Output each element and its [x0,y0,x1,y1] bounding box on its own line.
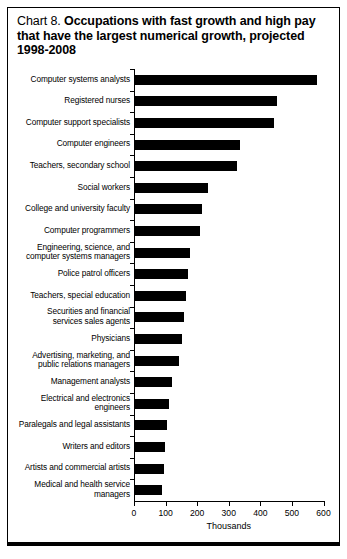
x-axis-tick-label: 100 [151,508,181,518]
y-axis-tick [130,415,134,416]
y-axis-tick [130,393,134,394]
y-axis-tick [130,242,134,243]
x-axis-tick [324,502,325,506]
category-label: Writers and editors [12,442,130,452]
category-label: Computer support specialists [12,118,130,128]
y-axis-tick [130,91,134,92]
category-label: Computer systems analysts [12,75,130,85]
chart-figure: Chart 8. Occupations with fast growth an… [7,7,340,543]
bar [135,118,274,128]
y-axis-tick [130,134,134,135]
bar [135,183,208,193]
bar [135,399,169,409]
bar [135,140,240,150]
x-axis-tick [197,502,198,506]
bar [135,161,237,171]
bar [135,334,182,344]
x-axis-tick [229,502,230,506]
y-axis-tick [130,199,134,200]
bar [135,291,186,301]
bar [135,226,200,236]
category-label: Social workers [12,183,130,193]
category-label: Teachers, secondary school [12,161,130,171]
y-axis-tick [130,112,134,113]
y-axis-tick [130,458,134,459]
x-axis-tick-label: 200 [182,508,212,518]
y-axis-tick [130,371,134,372]
bar [135,377,172,387]
category-label: Paralegals and legal assistants [12,420,130,430]
category-label: Advertising, marketing, and public relat… [12,351,130,370]
y-axis-tick [130,155,134,156]
category-label: Medical and health service managers [12,480,130,499]
y-axis-tick [130,307,134,308]
category-label: Artists and commercial artists [12,463,130,473]
bar [135,96,277,106]
category-label: Police patrol officers [12,269,130,279]
y-axis-tick [130,177,134,178]
x-axis-tick [166,502,167,506]
bar [135,464,164,474]
bar [135,442,165,452]
bar [135,356,179,366]
x-axis-tick-label: 500 [277,508,307,518]
y-axis-tick [130,328,134,329]
x-axis-title: Thousands [134,521,324,531]
category-label: Computer engineers [12,139,130,149]
x-axis-tick-label: 0 [119,508,149,518]
category-label: Computer programmers [12,226,130,236]
bar [135,312,184,322]
bar [135,204,202,214]
x-axis-tick [134,502,135,506]
y-axis-tick [130,220,134,221]
category-label: Electrical and electronics engineers [12,394,130,413]
plot-area: Thousands Computer systems analystsRegis… [8,8,341,544]
y-axis-tick [130,263,134,264]
x-axis-tick-label: 300 [214,508,244,518]
category-label: College and university faculty [12,204,130,214]
y-axis-tick [130,479,134,480]
x-axis-tick-label: 400 [245,508,275,518]
y-axis-tick [130,69,134,70]
bar [135,248,190,258]
x-axis-tick [292,502,293,506]
bar [135,420,167,430]
category-label: Management analysts [12,377,130,387]
category-label: Securities and financial services sales … [12,307,130,326]
y-axis-tick [130,350,134,351]
category-label: Physicians [12,334,130,344]
category-label: Teachers, special education [12,291,130,301]
category-label: Registered nurses [12,96,130,106]
bar [135,269,188,279]
bar [135,485,162,495]
y-axis-line [134,69,135,501]
y-axis-tick [130,436,134,437]
category-label: Engineering, science, and computer syste… [12,243,130,262]
x-axis-tick [260,502,261,506]
bar [135,75,317,85]
x-axis-tick-label: 600 [309,508,339,518]
y-axis-tick [130,285,134,286]
